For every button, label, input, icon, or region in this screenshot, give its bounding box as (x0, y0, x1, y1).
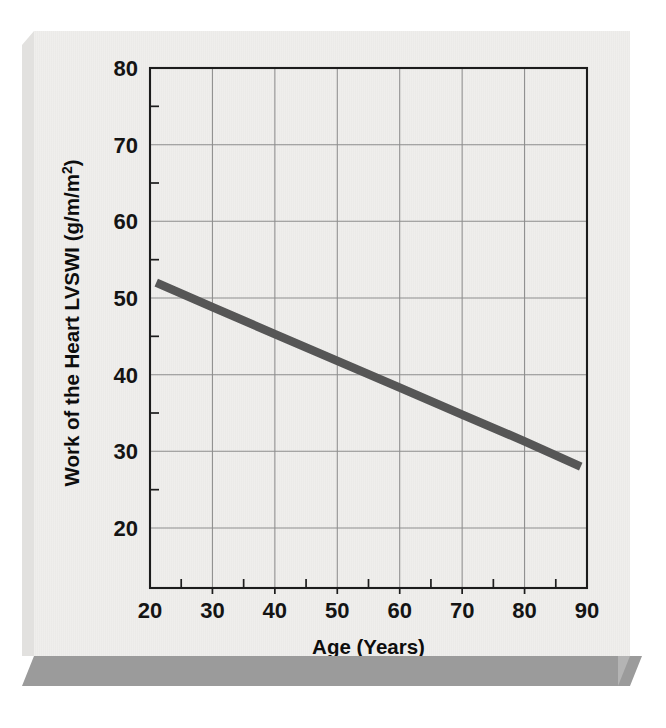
x-axis-tick-labels: 2030405060708090 (138, 598, 599, 623)
figure-root: 20304050607080 2030405060708090 Age (Yea… (0, 0, 666, 728)
x-tick-label-70: 70 (450, 598, 474, 623)
x-tick-label-50: 50 (325, 598, 349, 623)
y-tick-label-80: 80 (114, 56, 138, 81)
grid-horizontal (150, 145, 587, 528)
y-tick-label-70: 70 (114, 133, 138, 158)
x-tick-label-60: 60 (387, 598, 411, 623)
y-tick-label-20: 20 (114, 516, 138, 541)
x-tick-label-80: 80 (512, 598, 536, 623)
y-tick-label-40: 40 (114, 363, 138, 388)
panel-bevel-left (22, 31, 34, 656)
line-chart: 20304050607080 2030405060708090 Age (Yea… (34, 31, 630, 656)
x-tick-label-90: 90 (575, 598, 599, 623)
y-tick-label-50: 50 (114, 286, 138, 311)
x-axis-title: Age (Years) (312, 635, 425, 656)
plot-frame (150, 68, 587, 588)
y-tick-label-30: 30 (114, 439, 138, 464)
y-tick-label-60: 60 (114, 209, 138, 234)
x-tick-label-30: 30 (200, 598, 224, 623)
panel-bevel-bottom (22, 656, 642, 686)
x-tick-label-40: 40 (263, 598, 287, 623)
x-axis-minor-ticks (181, 579, 556, 587)
y-axis-title: Work of the Heart LVSWI (g/m/m2) (59, 159, 83, 486)
y-axis-tick-labels: 20304050607080 (114, 56, 138, 541)
x-tick-label-20: 20 (138, 598, 162, 623)
